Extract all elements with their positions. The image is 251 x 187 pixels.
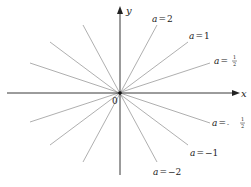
- svg-text:a=: a=: [214, 56, 228, 66]
- svg-text:a=−1: a=−1: [190, 148, 218, 158]
- y-axis-arrow-icon: [117, 6, 123, 14]
- line-label-a-neg-2: a=−2: [153, 167, 181, 177]
- svg-text:a=1: a=1: [189, 31, 210, 41]
- origin-label: 0: [112, 96, 118, 106]
- line-label-a-2: a=2: [152, 14, 173, 24]
- x-axis-label: x: [241, 88, 247, 99]
- y-axis-label: y: [125, 5, 132, 16]
- svg-text:a=−2: a=−2: [153, 167, 181, 177]
- line-label-a-1: a=1: [189, 31, 210, 41]
- svg-text:1: 1: [241, 116, 244, 122]
- x-axis-arrow-icon: [232, 90, 240, 96]
- line-label-a-neg-1: a=−1: [190, 148, 218, 158]
- svg-text:2: 2: [233, 61, 236, 67]
- svg-text:2: 2: [241, 123, 244, 129]
- line-label-a-half: a= 1 2: [214, 54, 237, 67]
- svg-text:a=2: a=2: [152, 14, 173, 24]
- svg-text:1: 1: [233, 54, 236, 60]
- diagram-canvas: x y 0 a=2 a=1 a= 1 2 a=- 1 2 a=−1 a=−2: [0, 0, 251, 187]
- line-label-a-neg-half: a=- 1 2: [212, 116, 245, 129]
- svg-text:a=-: a=-: [212, 118, 229, 128]
- origin-dot: [118, 91, 122, 95]
